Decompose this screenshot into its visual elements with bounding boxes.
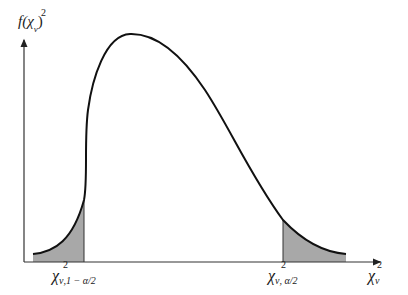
x-axis-sup: 2: [377, 259, 382, 270]
lower-critical-label: χν,1 − α/2: [50, 267, 96, 286]
chi-square-diagram: f(χν) 2 2 χν,1 − α/2 2 χν, α/2 2 χν: [0, 0, 408, 295]
lower-critical-sup: 2: [63, 259, 68, 270]
upper-tail-region: [283, 220, 346, 262]
y-axis-label: f(χν): [18, 13, 43, 34]
y-axis-label-sup: 2: [41, 7, 46, 18]
upper-critical-sup: 2: [281, 259, 286, 270]
